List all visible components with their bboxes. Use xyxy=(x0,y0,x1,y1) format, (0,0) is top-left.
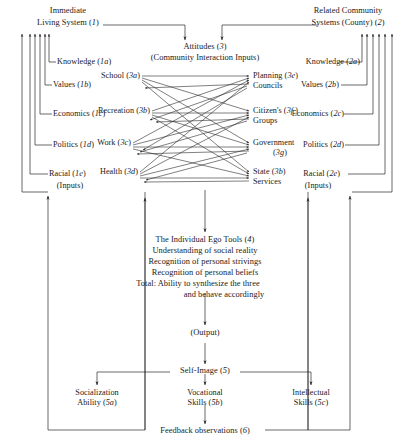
output-label: (Output) xyxy=(190,328,219,338)
interaction-work: Work (3c) xyxy=(97,138,131,148)
outcome-socialization-line1: Socialization xyxy=(75,388,118,398)
left-system-header-line1: Immediate xyxy=(50,6,86,16)
right-inputs-note: (Inputs) xyxy=(305,181,331,191)
interaction-planning-line2: Councils xyxy=(253,81,283,91)
interaction-state-line2: Services xyxy=(253,177,281,187)
right-system-header-line1: Related Community xyxy=(314,6,383,16)
outcome-socialization-line2: Ability (5a) xyxy=(77,398,117,408)
inputs-return-arrows xyxy=(145,198,308,430)
interaction-health: Health (3d) xyxy=(100,167,138,177)
attitudes-subtitle: (Community Interaction Inputs) xyxy=(151,53,260,63)
ego-tools-line4: Recognition of personal beliefs xyxy=(152,268,258,278)
left-item-knowledge: Knowledge (1a) xyxy=(57,57,111,67)
interaction-government-line2: (3g) xyxy=(273,148,287,158)
interaction-citizens-line2: Groups xyxy=(253,116,277,126)
ego-tools-line2: Understanding of social reality xyxy=(152,246,257,256)
right-item-politics: Politics (2d) xyxy=(303,140,344,150)
interaction-recreation: Recreation (3b) xyxy=(98,106,150,116)
interaction-government-line1: Government xyxy=(253,138,294,148)
feedback-label: Feedback observations (6) xyxy=(157,426,253,436)
self-image-label: Self-Image (5) xyxy=(180,366,230,376)
outcome-vocational-line1: Vocational xyxy=(187,388,222,398)
interaction-planning-line1: Planning (3e) xyxy=(253,71,298,81)
ego-tools-line1: The Individual Ego Tools (4) xyxy=(156,235,255,245)
ego-tools-line5: Total: Ability to synthesize the three xyxy=(136,279,259,289)
outcome-vocational-line2: Skills (5b) xyxy=(188,398,223,408)
right-item-knowledge: Knowledge (2a) xyxy=(306,57,360,67)
outcome-intellectual-line1: Intellectual xyxy=(292,388,329,398)
right-system-header-line2: Systems (County) (2) xyxy=(311,18,384,28)
interaction-school: School (3a) xyxy=(101,71,140,81)
interaction-crossings xyxy=(133,76,249,182)
outcome-intellectual-line2: Skills (5c) xyxy=(294,398,328,408)
interaction-citizens-line1: Citizen's (3f ) xyxy=(253,106,298,116)
ego-tools-line6: and behave accordingly xyxy=(184,290,265,300)
left-system-header-line2: Living System (1) xyxy=(37,18,99,28)
attitudes-title: Attitudes (3) xyxy=(183,42,226,52)
left-item-values: Values (1b) xyxy=(53,80,91,90)
attitudes-inflow xyxy=(103,25,318,40)
left-item-racial: Racial (1e) xyxy=(49,169,86,179)
interaction-state-line1: State (3b) xyxy=(253,167,286,177)
left-inputs-note: (Inputs) xyxy=(57,181,83,191)
flow-diagram: Immediate Living System (1) Related Comm… xyxy=(0,0,410,443)
ego-tools-line3: Recognition of personal strivings xyxy=(148,257,261,267)
left-item-politics: Politics (1d) xyxy=(53,140,94,150)
right-item-values: Values (2b) xyxy=(301,80,339,90)
right-item-economics: Economics (2c) xyxy=(292,109,344,119)
right-item-racial: Racial (2e) xyxy=(303,169,340,179)
